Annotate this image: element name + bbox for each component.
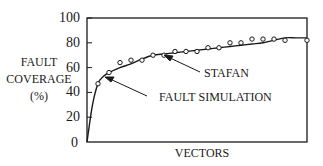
stafan-data-point xyxy=(129,58,133,62)
stafan-markers xyxy=(96,37,309,86)
annotation-stafan: STAFAN xyxy=(204,66,249,81)
stafan-data-point xyxy=(239,41,243,45)
ylabel-line-1: FAULT xyxy=(0,54,79,71)
stafan-data-point xyxy=(261,37,265,41)
ylabel-line-3: (%) xyxy=(0,88,79,105)
x-axis-label: VECTORS xyxy=(82,146,322,161)
stafan-data-point xyxy=(151,53,155,57)
y-tick-20: 20 xyxy=(54,110,80,124)
y-tick-0: 0 xyxy=(52,136,78,150)
stafan-arrowhead-icon xyxy=(164,55,173,61)
stafan-data-point xyxy=(118,60,122,64)
stafan-data-point xyxy=(272,37,276,41)
stafan-data-point xyxy=(107,70,111,74)
annotation-fault-simulation: FAULT SIMULATION xyxy=(159,90,272,105)
y-axis-ticks xyxy=(87,18,92,117)
stafan-data-point xyxy=(195,49,199,53)
y-axis-label: FAULT COVERAGE (%) xyxy=(0,54,79,105)
stafan-data-point xyxy=(96,82,100,86)
stafan-data-point xyxy=(140,58,144,62)
stafan-data-point xyxy=(250,37,254,41)
ylabel-line-2: COVERAGE xyxy=(0,71,79,88)
stafan-data-point xyxy=(184,49,188,53)
y-tick-100: 100 xyxy=(54,11,80,25)
stafan-arrow-line xyxy=(168,57,200,72)
stafan-data-point xyxy=(173,49,177,53)
stafan-data-point xyxy=(206,46,210,50)
y-tick-80: 80 xyxy=(54,36,80,50)
fault-arrowhead-icon xyxy=(105,77,114,82)
stafan-data-point xyxy=(305,38,309,42)
stafan-data-point xyxy=(217,46,221,50)
stafan-data-point xyxy=(228,41,232,45)
fault-arrow-line xyxy=(110,79,147,96)
stafan-data-point xyxy=(283,38,287,42)
